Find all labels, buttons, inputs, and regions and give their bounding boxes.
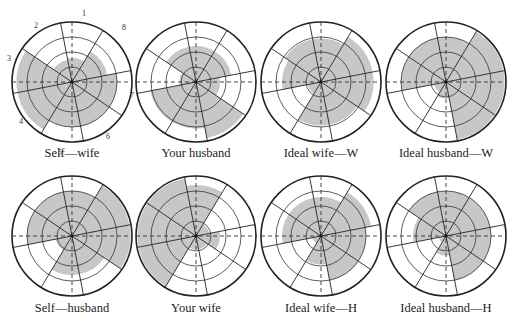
center-dot	[319, 80, 322, 83]
panel-caption: Your husband	[161, 146, 231, 160]
octant-number-label: 7	[130, 91, 134, 100]
octant-number-label: 2	[34, 21, 38, 30]
octant-panel: Ideal husband—W	[386, 22, 506, 160]
octant-panel: Ideal wife—W	[261, 22, 381, 160]
octant-panel: Self—wife	[12, 22, 132, 160]
center-dot	[194, 80, 197, 83]
panels-group: Self—wifeYour husbandIdeal wife—WIdeal h…	[12, 22, 506, 315]
center-dot	[70, 80, 73, 83]
center-dot	[444, 234, 447, 237]
octant-panel: Your wife	[136, 176, 256, 315]
panel-caption: Ideal wife—H	[285, 301, 357, 315]
octant-number-label: 8	[122, 23, 126, 32]
octant-panel: Ideal husband—H	[386, 176, 506, 315]
center-dot	[70, 234, 73, 237]
octant-number-label: 4	[19, 117, 23, 126]
octant-number-label: 6	[106, 132, 110, 141]
center-dot	[194, 234, 197, 237]
shaded-sector-octant-6	[196, 82, 243, 138]
panel-caption: Self—husband	[35, 301, 110, 315]
panel-caption: Ideal husband—W	[399, 146, 493, 160]
octant-panel: Your husband	[136, 22, 256, 160]
center-dot	[444, 80, 447, 83]
panel-caption: Ideal husband—H	[400, 301, 491, 315]
panel-caption: Ideal wife—W	[284, 146, 359, 160]
center-dot	[319, 234, 322, 237]
octant-number-label: 1	[82, 9, 86, 18]
octant-panel: Ideal wife—H	[261, 176, 381, 315]
octant-panel: Self—husband	[12, 176, 132, 315]
panel-caption: Your wife	[171, 301, 221, 315]
octant-number-label: 5	[58, 148, 62, 157]
panel-caption: Self—wife	[45, 146, 100, 160]
octant-chart-figure: Self—wifeYour husbandIdeal wife—WIdeal h…	[0, 0, 519, 332]
octant-number-label: 3	[7, 54, 11, 63]
